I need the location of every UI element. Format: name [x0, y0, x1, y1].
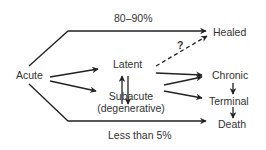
arrow-acute-subacute [50, 81, 96, 91]
edge-label-80-90: 80–90% [114, 13, 153, 24]
node-chronic: Chronic [212, 70, 248, 81]
node-subacute-degenerative: (degenerative) [92, 103, 170, 114]
arrow-acute-latent [50, 69, 98, 77]
node-terminal: Terminal [209, 96, 249, 107]
node-death: Death [218, 119, 246, 130]
node-healed: Healed [213, 27, 246, 38]
arrow-subacute-terminal [164, 91, 202, 98]
node-acute: Acute [16, 70, 43, 81]
edge-label-less-than-5: Less than 5% [108, 130, 172, 141]
node-subacute: Subacute [101, 91, 161, 102]
disease-course-diagram: 80–90% ? Less than 5% Acute Latent Subac… [0, 0, 266, 150]
edge-label-question: ? [177, 40, 183, 51]
node-latent: Latent [113, 59, 142, 70]
arrow-latent-chronic [156, 73, 202, 75]
arrow-subacute-chronic [164, 77, 202, 85]
